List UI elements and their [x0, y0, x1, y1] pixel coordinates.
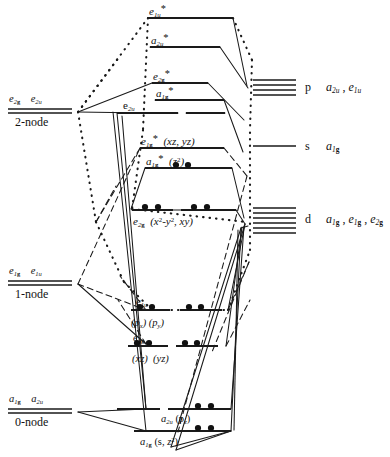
ligand-node-label-1node: 1-node: [15, 288, 48, 300]
metal-symmetry-label-p: a2u , e1u: [326, 81, 361, 95]
electron-e2g-b-1: [191, 204, 197, 210]
mo-label-a1g-star: a1g*: [156, 86, 174, 101]
mo-label-e1g: e1g: [133, 333, 144, 344]
ligand-group-label-0node: a1g a2u: [9, 394, 43, 405]
electron-a2u-1: [195, 403, 201, 409]
electron-e1u-b-2: [198, 304, 204, 310]
electron-e1g-b-2: [194, 340, 200, 346]
metal-orbital-label-d: d: [305, 213, 311, 225]
ligand-group-label-1node: e1g e1u: [9, 266, 42, 277]
electron-a1g-2: [208, 425, 214, 431]
electron-a2u-2: [208, 403, 214, 409]
electron-e1u-b-1: [186, 304, 192, 310]
metal-orbital-label-p: p: [305, 81, 311, 93]
mo-label-e1g-star: e1g* (xz, yz): [141, 134, 195, 149]
electron-e2g-a-1: [142, 204, 148, 210]
ligand-node-label-2node: 2-node: [15, 116, 48, 128]
electron-e1u-a-2: [149, 304, 155, 310]
mo-label-a1g-z2: a1g* (z2): [146, 154, 184, 169]
mo-diagram-figure: e1u* a2u* e2g* a1g* e2u e1g* (xz, yz) a1…: [0, 0, 390, 457]
electron-a1g-z2-2: [185, 162, 191, 168]
metal-orbital-label-s: s: [305, 140, 310, 152]
mo-label-a2u: a2u (pz): [161, 414, 190, 425]
metal-symmetry-label-s: a1g: [326, 140, 339, 154]
mo-label-a1g: a1g (s, z2): [140, 437, 178, 448]
mo-label-a2u-star: a2u*: [151, 33, 169, 48]
mo-label-e2g-star: e2g*: [153, 69, 170, 84]
ligand-node-label-0node: 0-node: [15, 416, 48, 428]
electron-e1g-b-1: [182, 340, 188, 346]
mo-sublabel-e1u: (px) (py): [131, 318, 164, 329]
electron-e2g-b-2: [204, 204, 210, 210]
metal-symmetry-label-d: a1g , e1g , e2g: [326, 213, 383, 227]
mo-level-bars: [0, 0, 390, 457]
electron-e2g-a-2: [155, 204, 161, 210]
ligand-group-label-2node: e2g e2u: [9, 94, 42, 105]
mo-label-e1u: e1u: [136, 297, 147, 308]
mo-label-e2u: e2u: [123, 100, 135, 113]
mo-sublabel-e1g: (xz) (yz): [132, 354, 169, 365]
electron-a1g-1: [195, 425, 201, 431]
mo-label-e2g: e2g (x2-y2, xy): [133, 216, 193, 229]
electron-e1g-a-2: [146, 340, 152, 346]
mo-label-e1u-star: e1u*: [149, 4, 166, 19]
